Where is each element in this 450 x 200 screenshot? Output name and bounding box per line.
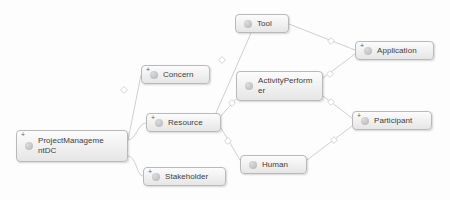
- class-circle-icon: [244, 20, 252, 28]
- edge-marker-pmdc-concern: [121, 87, 128, 94]
- class-circle-icon: [364, 47, 372, 55]
- node-tool[interactable]: Tool: [235, 14, 289, 33]
- node-label-human: Human: [262, 160, 288, 170]
- edge-marker-activityperformer-participant: [328, 99, 335, 106]
- expander-icon-projectmanagementdc[interactable]: +: [20, 132, 26, 138]
- node-participant[interactable]: +Participant: [352, 111, 432, 130]
- class-circle-icon: [361, 117, 369, 125]
- edge-pmdc-stakeholder: [128, 156, 143, 176]
- node-application[interactable]: +Application: [355, 41, 434, 60]
- class-circle-icon: [155, 119, 163, 127]
- edge-marker-application-activityperformer: [327, 71, 334, 78]
- node-projectmanagementdc[interactable]: +ProjectManageme ntDC: [16, 130, 128, 162]
- expander-icon-concern[interactable]: +: [145, 67, 151, 73]
- node-label-stakeholder: Stakeholder: [165, 172, 208, 182]
- node-label-activityperformer: ActivityPerform er: [258, 76, 313, 96]
- edge-activityperformer-participant: [323, 96, 352, 118]
- node-label-concern: Concern: [163, 70, 194, 80]
- edge-marker-tool-application: [328, 38, 335, 45]
- edge-marker-tool-resource: [219, 57, 226, 64]
- edge-pmdc-concern: [128, 75, 141, 140]
- class-circle-icon: [245, 82, 253, 90]
- expander-icon-application[interactable]: +: [359, 43, 365, 49]
- node-label-projectmanagementdc: ProjectManageme ntDC: [38, 136, 104, 156]
- edge-participant-human: [307, 126, 352, 160]
- expander-icon-participant[interactable]: +: [356, 113, 362, 119]
- class-circle-icon: [249, 161, 257, 169]
- class-circle-icon: [25, 142, 33, 150]
- class-circle-icon: [150, 71, 158, 79]
- class-circle-icon: [152, 173, 160, 181]
- edge-resource-activityperformer: [221, 99, 236, 116]
- node-resource[interactable]: +Resource: [146, 113, 221, 132]
- node-stakeholder[interactable]: +Stakeholder: [143, 167, 226, 186]
- node-human[interactable]: Human: [240, 155, 307, 174]
- edge-marker-participant-human: [331, 137, 338, 144]
- edge-marker-resource-human: [225, 138, 232, 145]
- node-label-tool: Tool: [257, 19, 272, 29]
- expander-icon-stakeholder[interactable]: +: [147, 169, 153, 175]
- expander-icon-resource[interactable]: +: [150, 115, 156, 121]
- class-diagram-canvas[interactable]: +ProjectManageme ntDC+Concern+Resource+S…: [0, 0, 450, 200]
- node-label-resource: Resource: [168, 118, 203, 128]
- edge-tool-application: [289, 24, 355, 50]
- node-label-participant: Participant: [374, 116, 412, 126]
- node-activityperformer[interactable]: ActivityPerform er: [236, 71, 323, 101]
- edge-pmdc-resource: [128, 123, 146, 140]
- edge-application-activityperformer: [323, 54, 355, 78]
- node-label-application: Application: [377, 46, 417, 56]
- node-concern[interactable]: +Concern: [141, 65, 210, 84]
- edge-marker-resource-activityperformer: [229, 100, 236, 107]
- edge-resource-human: [221, 128, 240, 160]
